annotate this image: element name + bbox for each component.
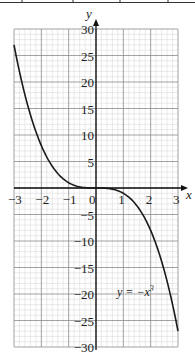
x-tick-label: 2 xyxy=(146,192,153,207)
equation-label: y = −x3 xyxy=(116,284,154,299)
y-tick-label: 25 xyxy=(81,49,94,64)
x-tick-label: −2 xyxy=(35,192,49,207)
axes xyxy=(14,19,188,350)
y-tick-label: 10 xyxy=(81,128,94,143)
top-border xyxy=(0,0,195,3)
y-tick-label: −25 xyxy=(74,314,94,329)
y-tick-label: 5 xyxy=(88,155,95,170)
y-tick-label: −20 xyxy=(74,287,94,302)
cubic-graph: −3−2−1012330252015105−5−10−15−20−25−30 x… xyxy=(0,0,195,356)
y-tick-label: 30 xyxy=(81,22,94,37)
y-tick-label: −15 xyxy=(74,261,94,276)
y-tick-label: 20 xyxy=(81,75,94,90)
x-tick-label: −3 xyxy=(8,192,22,207)
equation-main: y = −x xyxy=(116,285,151,299)
x-axis-label: x xyxy=(185,187,192,202)
x-tick-label: 0 xyxy=(89,192,96,207)
y-tick-label: −30 xyxy=(74,340,94,355)
x-tick-label: 3 xyxy=(173,192,180,207)
y-tick-label: −5 xyxy=(80,208,94,223)
equation-exponent: 3 xyxy=(149,284,154,293)
x-tick-label: −1 xyxy=(63,192,77,207)
y-tick-label: 15 xyxy=(81,102,94,117)
y-tick-label: −10 xyxy=(74,234,94,249)
y-axis-label: y xyxy=(84,6,92,21)
